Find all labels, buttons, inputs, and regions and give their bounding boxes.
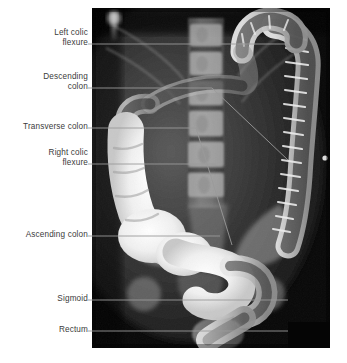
anatomy-figure: Left colic flexure Descending colon Tran… bbox=[0, 0, 347, 363]
label-rectum: Rectum bbox=[0, 325, 88, 335]
redaction-block bbox=[288, 322, 330, 348]
label-descending-colon: Descending colon bbox=[0, 72, 88, 92]
label-right-colic-flexure: Right colic flexure bbox=[0, 148, 88, 168]
radiograph-plate bbox=[92, 8, 330, 348]
label-ascending-colon: Ascending colon bbox=[0, 230, 88, 240]
label-left-colic-flexure: Left colic flexure bbox=[0, 28, 88, 48]
label-transverse-colon: Transverse colon bbox=[0, 122, 88, 132]
label-sigmoid: Sigmoid bbox=[0, 294, 88, 304]
